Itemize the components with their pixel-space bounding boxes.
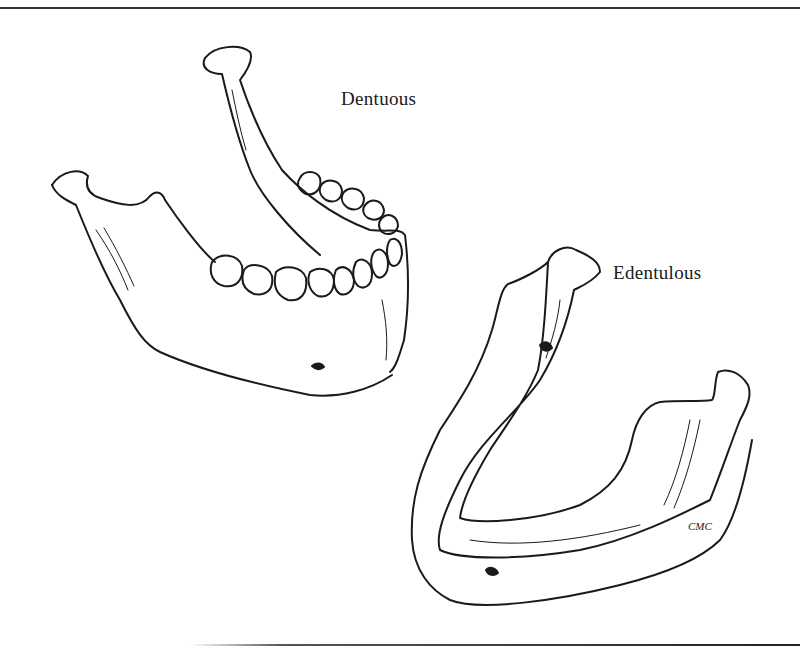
edentulous-label: Edentulous <box>613 262 702 284</box>
dentulous-label: Dentuous <box>341 88 416 110</box>
edentulous-mandible-drawing <box>412 248 752 605</box>
bottom-border-line <box>190 644 800 646</box>
artist-signature: CMC <box>688 520 712 532</box>
